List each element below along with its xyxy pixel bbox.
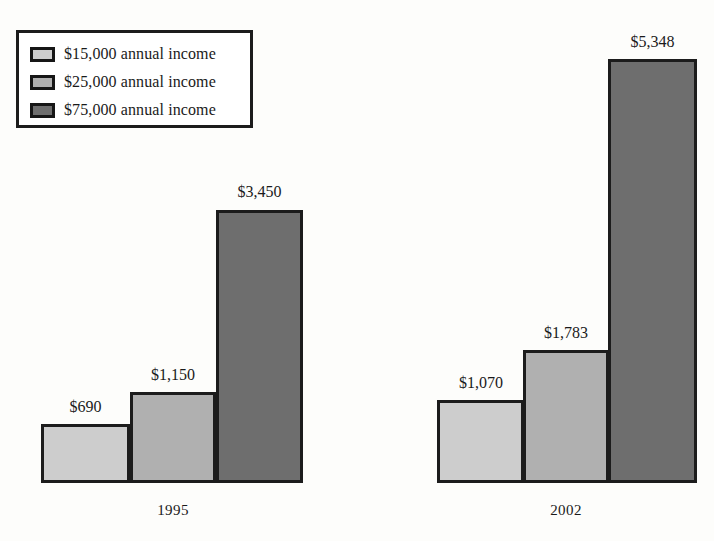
bar-chart-figure: $690$1,150$3,450$1,070$1,783$5,348199520… <box>0 0 714 541</box>
bar-1995-15000[interactable] <box>41 424 130 483</box>
group-label-2002: 2002 <box>523 503 609 518</box>
legend-swatch-25000 <box>30 75 55 90</box>
value-label-2002-75000: $5,348 <box>607 34 698 50</box>
value-label-2002-15000: $1,070 <box>436 375 526 391</box>
legend-item-label: $75,000 annual income <box>64 102 216 118</box>
value-label-1995-25000: $1,150 <box>128 367 218 383</box>
value-label-2002-25000: $1,783 <box>521 325 611 341</box>
value-label-1995-75000: $3,450 <box>214 184 305 200</box>
value-label-1995-15000: $690 <box>41 399 130 415</box>
bar-2002-75000[interactable] <box>608 59 697 483</box>
legend-swatch-75000 <box>30 103 55 118</box>
chart-legend: $15,000 annual income$25,000 annual inco… <box>16 30 253 128</box>
bar-1995-25000[interactable] <box>130 392 216 483</box>
bar-2002-15000[interactable] <box>437 400 524 483</box>
bar-1995-75000[interactable] <box>216 210 303 483</box>
legend-item-label: $25,000 annual income <box>64 74 216 90</box>
group-label-1995: 1995 <box>130 503 216 518</box>
bar-2002-25000[interactable] <box>523 350 609 483</box>
legend-item-1[interactable]: $25,000 annual income <box>30 68 250 96</box>
legend-item-2[interactable]: $75,000 annual income <box>30 96 250 124</box>
legend-item-label: $15,000 annual income <box>64 46 216 62</box>
legend-swatch-15000 <box>30 47 55 62</box>
legend-item-0[interactable]: $15,000 annual income <box>30 40 250 68</box>
